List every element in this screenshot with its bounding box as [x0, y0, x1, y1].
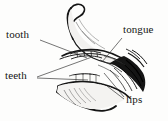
label-lips: lips: [126, 94, 142, 105]
label-teeth: teeth: [5, 70, 27, 81]
label-tooth: tooth: [6, 29, 29, 40]
label-tongue: tongue: [123, 24, 154, 35]
lower-lip-shape: [57, 82, 130, 111]
mouth-illustration: [0, 0, 168, 121]
anatomical-figure: tooth teeth tongue lips: [0, 0, 168, 121]
